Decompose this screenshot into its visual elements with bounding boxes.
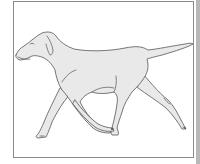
dog-illustration — [0, 0, 200, 164]
dog-rear-fore-leg — [36, 88, 70, 138]
dog-claw-front-mid — [111, 128, 113, 130]
dog-claw-rear — [184, 127, 185, 128]
dog-body — [16, 32, 193, 135]
dog-rear-hind-leg — [138, 70, 186, 129]
